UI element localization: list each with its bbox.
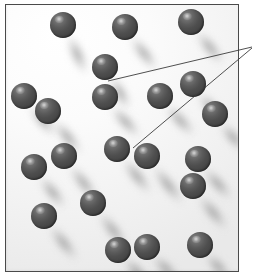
sphere-particle (50, 12, 76, 38)
sphere-particle (92, 54, 118, 80)
sphere-particle (180, 71, 206, 97)
sphere-particle (51, 143, 77, 169)
sphere-particle (134, 234, 160, 260)
sphere-particle (31, 203, 57, 229)
sphere-particle (202, 101, 228, 127)
sphere-particle (105, 237, 131, 263)
sphere-particle (178, 9, 204, 35)
sphere-particle (104, 136, 130, 162)
sphere-particle (21, 154, 47, 180)
sphere-particle (80, 190, 106, 216)
sphere-particle (147, 83, 173, 109)
sphere-particle (112, 14, 138, 40)
container-vessel (5, 4, 239, 272)
sphere-particle (35, 98, 61, 124)
particle-diagram-figure (0, 0, 253, 276)
sphere-particle (180, 173, 206, 199)
sphere-particle (134, 143, 160, 169)
sphere-particle (185, 146, 211, 172)
sphere-particle (11, 83, 37, 109)
sphere-particle (187, 232, 213, 258)
sphere-particle (92, 84, 118, 110)
